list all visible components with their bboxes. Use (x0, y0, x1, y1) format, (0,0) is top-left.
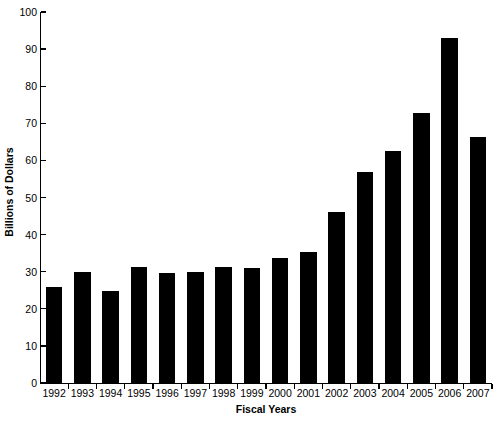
x-axis-tick-label: 2007 (466, 388, 489, 399)
bar (357, 172, 373, 383)
bar (102, 291, 118, 383)
bar (272, 258, 288, 383)
bar (131, 267, 147, 383)
x-axis-tick-label: 1998 (212, 388, 235, 399)
bar (215, 267, 231, 383)
bar (413, 113, 429, 383)
x-axis-tick-label: 1993 (71, 388, 94, 399)
x-axis-tick-label: 2005 (410, 388, 433, 399)
bar (385, 151, 401, 383)
x-axis-tick-label: 2004 (381, 388, 404, 399)
x-axis-tick-label: 1997 (184, 388, 207, 399)
bar (159, 273, 175, 383)
x-axis-tick-label: 1992 (42, 388, 65, 399)
bars-layer (0, 0, 498, 423)
x-axis-tick-label: 1995 (127, 388, 150, 399)
x-axis-tick-label: 2002 (325, 388, 348, 399)
bar (187, 272, 203, 383)
x-axis-tick-label: 1996 (155, 388, 178, 399)
bar-chart: Billions of Dollars 01020304050607080901… (0, 0, 498, 423)
x-axis-tick-labels: 1992199319941995199619971998199920002001… (0, 388, 498, 404)
bar (328, 212, 344, 383)
x-axis-tick-label: 2003 (353, 388, 376, 399)
x-axis-tick-label: 1999 (240, 388, 263, 399)
bar (300, 252, 316, 383)
bar (244, 268, 260, 383)
bar (46, 287, 62, 383)
bar (470, 137, 486, 383)
x-axis-tick-label: 2006 (438, 388, 461, 399)
bar (74, 272, 90, 383)
x-axis-tick-label: 2001 (297, 388, 320, 399)
x-axis-title: Fiscal Years (40, 404, 492, 415)
x-axis-tick-label: 1994 (99, 388, 122, 399)
bar (441, 38, 457, 383)
x-axis-tick-label: 2000 (268, 388, 291, 399)
